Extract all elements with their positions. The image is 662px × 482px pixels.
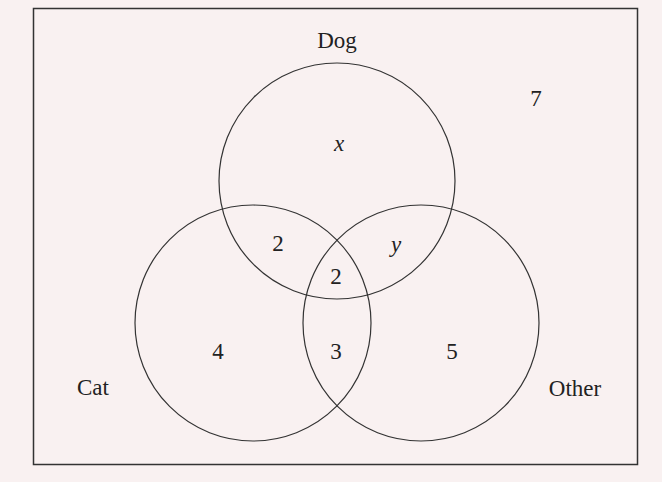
region-none: 7 xyxy=(530,87,542,110)
region-cat-other: 3 xyxy=(330,340,342,363)
cat-circle xyxy=(135,205,371,441)
universal-set-box xyxy=(34,9,638,465)
region-dog-other: y xyxy=(391,233,401,256)
venn-diagram xyxy=(0,0,662,482)
region-cat-only: 4 xyxy=(212,340,224,363)
dog-label: Dog xyxy=(317,29,357,52)
cat-label: Cat xyxy=(77,376,109,399)
other-circle xyxy=(303,205,539,441)
other-label: Other xyxy=(549,377,601,400)
region-cat-dog: 2 xyxy=(272,232,284,255)
region-all-three: 2 xyxy=(330,265,342,288)
region-other-only: 5 xyxy=(446,340,458,363)
region-dog-only: x xyxy=(334,132,344,155)
